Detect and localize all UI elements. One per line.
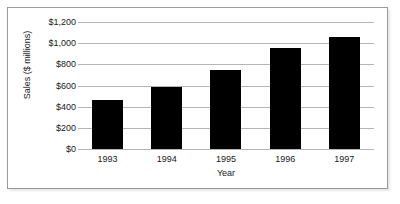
bar-1996 <box>270 48 301 149</box>
bar-1997 <box>329 37 360 149</box>
x-axis-tick-labels: 19931994199519961997 <box>78 154 374 164</box>
gridline <box>78 149 374 150</box>
y-tick-label: $800 <box>22 59 76 69</box>
y-tick-label: $1,000 <box>22 38 76 48</box>
x-tick-label: 1996 <box>270 154 301 164</box>
x-tick-label: 1997 <box>329 154 360 164</box>
y-tick-label: $0 <box>22 144 76 154</box>
plot-area <box>78 22 374 149</box>
x-tick-label: 1995 <box>210 154 241 164</box>
chart-area: Sales ($ millions) $0$200$400$600$800$1,… <box>8 8 389 190</box>
bar-chart-figure: Sales ($ millions) $0$200$400$600$800$1,… <box>0 0 400 204</box>
y-tick-label: $400 <box>22 102 76 112</box>
chart-frame: Sales ($ millions) $0$200$400$600$800$1,… <box>7 7 388 189</box>
x-axis-title: Year <box>78 168 374 178</box>
y-tick-label: $600 <box>22 81 76 91</box>
y-tick-label: $200 <box>22 123 76 133</box>
bar-1993 <box>92 100 123 149</box>
bar-series <box>78 22 374 149</box>
x-tick-label: 1993 <box>92 154 123 164</box>
y-axis-tick-labels: $0$200$400$600$800$1,000$1,200 <box>22 22 76 149</box>
y-tick-label: $1,200 <box>22 17 76 27</box>
x-tick-label: 1994 <box>151 154 182 164</box>
bar-1994 <box>151 87 182 149</box>
bar-1995 <box>210 70 241 149</box>
